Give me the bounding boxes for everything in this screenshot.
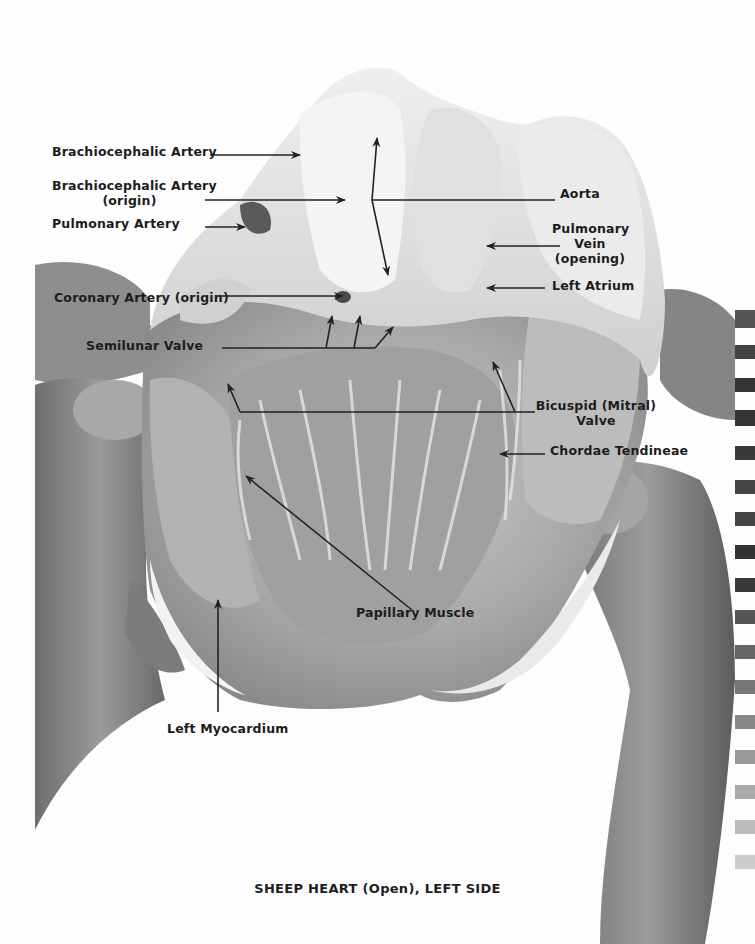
label-pulmonary-artery: Pulmonary Artery — [52, 216, 180, 231]
label-bicuspid-valve-line1: Bicuspid (Mitral) — [535, 398, 657, 413]
figure-caption: SHEEP HEART (Open), LEFT SIDE — [0, 881, 755, 896]
label-brachiocephalic-artery-origin-line2: (origin) — [52, 193, 207, 208]
label-bicuspid-valve-line2: Valve — [535, 413, 657, 428]
label-semilunar-valve: Semilunar Valve — [86, 338, 203, 353]
label-brachiocephalic-artery-origin: Brachiocephalic Artery (origin) — [52, 178, 207, 208]
label-brachiocephalic-artery-origin-line1: Brachiocephalic Artery — [52, 178, 207, 193]
heart-photo — [0, 0, 755, 944]
label-left-atrium: Left Atrium — [552, 278, 634, 293]
label-pulmonary-vein-line2: Vein — [552, 236, 628, 251]
label-papillary-muscle: Papillary Muscle — [356, 605, 474, 620]
label-pulmonary-vein: Pulmonary Vein (opening) — [552, 221, 628, 266]
label-coronary-artery-origin: Coronary Artery (origin) — [54, 290, 229, 305]
diagram-page: Brachiocephalic Artery Brachiocephalic A… — [0, 0, 755, 944]
label-bicuspid-mitral-valve: Bicuspid (Mitral) Valve — [535, 398, 657, 428]
label-pulmonary-vein-line1: Pulmonary — [552, 221, 628, 236]
label-pulmonary-vein-line3: (opening) — [552, 251, 628, 266]
page-edge-tabs — [735, 310, 755, 869]
label-aorta: Aorta — [560, 186, 600, 201]
label-left-myocardium: Left Myocardium — [167, 721, 289, 736]
label-brachiocephalic-artery: Brachiocephalic Artery — [52, 144, 217, 159]
label-chordae-tendineae: Chordae Tendineae — [550, 443, 688, 458]
